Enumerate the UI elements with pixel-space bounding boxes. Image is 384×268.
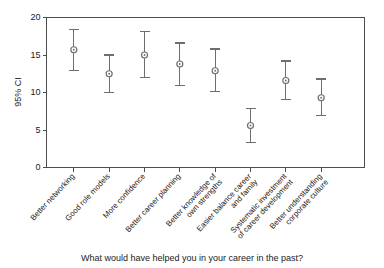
x-axis-title: What would have helped you in your caree… [81,253,303,263]
data-point-center-dot [144,54,146,56]
y-tick-label: 15 [30,50,40,60]
data-point-center-dot [108,73,110,75]
data-point-center-dot [179,63,181,65]
y-axis-title: 95% CI [13,77,23,107]
figure-background [0,0,384,268]
y-tick-label: 20 [30,12,40,22]
data-point-center-dot [73,49,75,51]
y-tick-label: 10 [30,87,40,97]
data-point-center-dot [214,70,216,72]
confidence-interval-plot: 05101520 95% CI Better networkingGood ro… [0,0,384,268]
chart-figure: 05101520 95% CI Better networkingGood ro… [0,0,384,268]
data-point-center-dot [320,97,322,99]
data-point-center-dot [285,80,287,82]
y-tick-label: 5 [35,125,40,135]
data-point-center-dot [250,125,252,127]
y-tick-label: 0 [35,162,40,172]
